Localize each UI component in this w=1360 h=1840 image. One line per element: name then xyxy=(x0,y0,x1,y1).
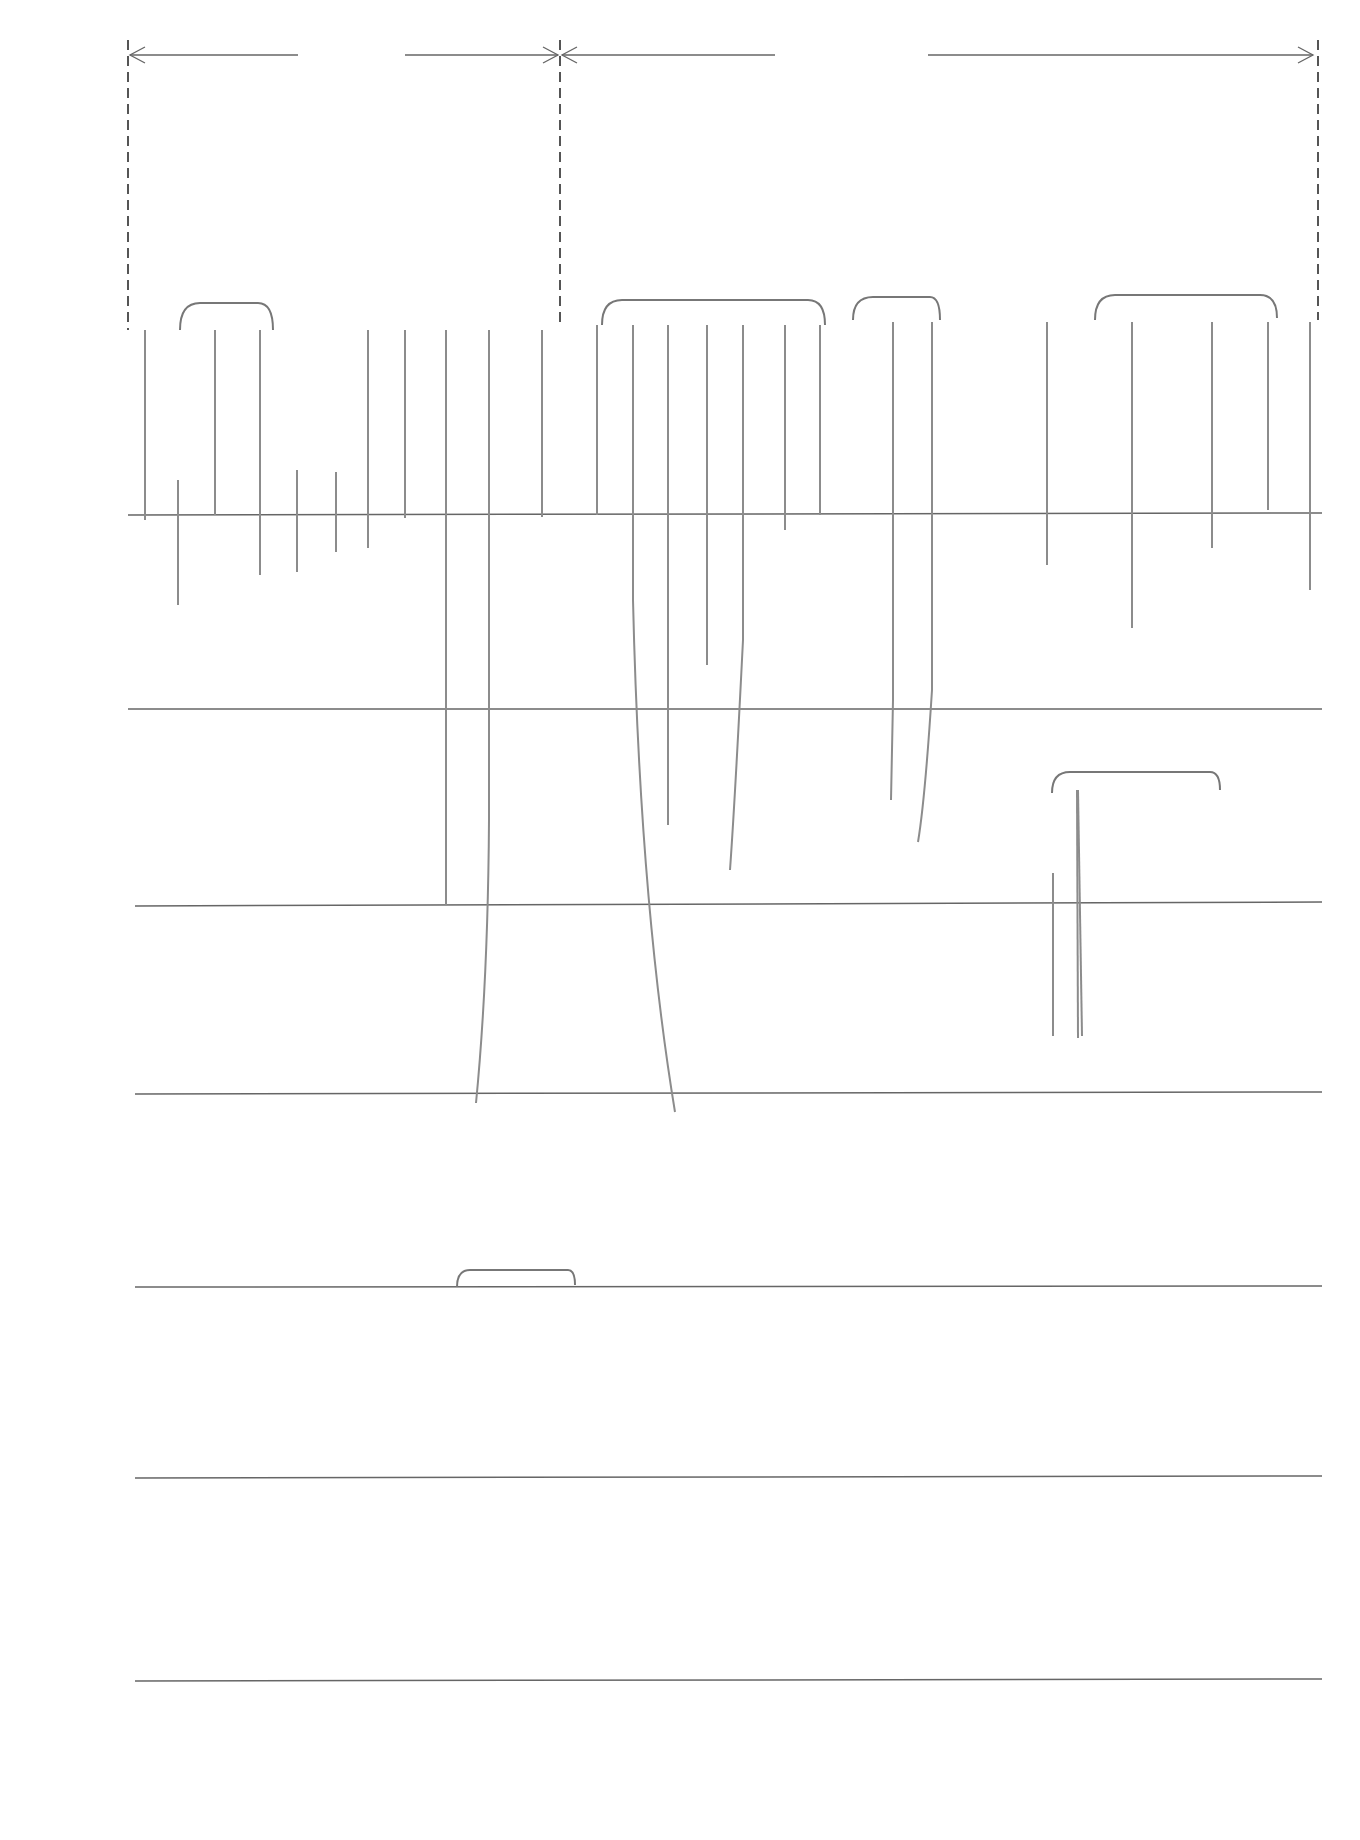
known-lineages xyxy=(145,322,1310,1112)
time-grid xyxy=(128,513,1322,1681)
braces xyxy=(180,295,1277,1287)
prosimii-header xyxy=(130,47,558,63)
primate-phylogeny-diagram xyxy=(0,0,1360,1840)
anthropoidea-header xyxy=(562,47,1313,63)
